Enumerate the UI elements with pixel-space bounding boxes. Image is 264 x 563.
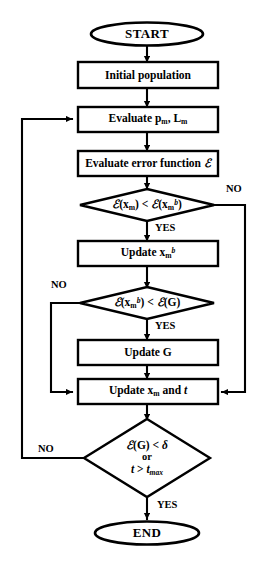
node-evaluate-pm-lm xyxy=(78,107,218,132)
node-end xyxy=(95,522,199,545)
node-update-x-and-t xyxy=(78,379,218,404)
edge-cmpglobal-no xyxy=(51,303,80,392)
node-update-g xyxy=(78,340,218,365)
node-start xyxy=(91,23,203,46)
node-evaluate-error-function xyxy=(78,151,218,176)
flowchart-canvas xyxy=(0,0,264,563)
node-initial-population xyxy=(78,62,218,88)
node-update-xb xyxy=(78,241,218,266)
edge-stoptest-no xyxy=(22,119,84,458)
node-decision-stop xyxy=(84,419,210,497)
node-decision-local-best xyxy=(80,189,214,221)
node-decision-global-best xyxy=(80,287,214,319)
